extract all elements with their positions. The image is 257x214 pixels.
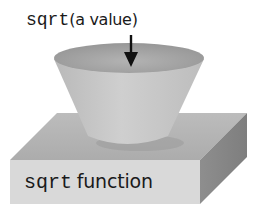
input-argument: (a value) bbox=[69, 10, 137, 29]
input-function-name: sqrt bbox=[26, 10, 69, 30]
box-label: sqrt function bbox=[24, 172, 153, 193]
input-label: sqrt(a value) bbox=[26, 11, 138, 29]
box-function-name: sqrt bbox=[24, 171, 72, 194]
box-description: function bbox=[77, 170, 153, 192]
